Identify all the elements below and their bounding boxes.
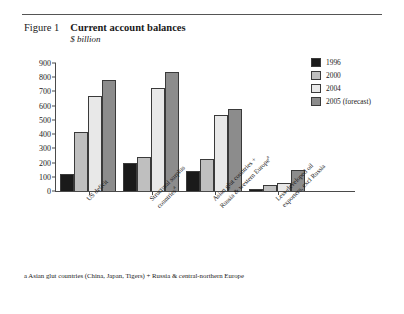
legend-item[interactable]: 1996 [311, 56, 371, 68]
bar [88, 96, 102, 191]
y-axis-tick-mark [52, 77, 56, 78]
figure-subtitle: $ billion [70, 34, 185, 45]
legend-swatch [311, 71, 321, 80]
top-rule [22, 14, 382, 15]
figure-footnote: a Asian glut countries (China, Japan, Ti… [24, 272, 244, 279]
figure-container: Figure 1 Current account balances $ bill… [0, 0, 404, 314]
y-axis-tick-mark [52, 176, 56, 177]
bar-group [60, 63, 118, 191]
bar [151, 88, 165, 191]
legend-swatch [311, 97, 321, 106]
legend-item[interactable]: 2000 [311, 69, 371, 81]
legend-swatch [311, 84, 321, 93]
bar [102, 80, 116, 191]
bar [74, 132, 88, 191]
y-axis-tick-mark [52, 119, 56, 120]
bar [137, 157, 151, 191]
y-axis-tick-mark [52, 162, 56, 163]
plot-area: 0100200300400500600700800900 US deficitS… [56, 63, 284, 191]
legend-item[interactable]: 2004 [311, 82, 371, 94]
bar [214, 115, 228, 191]
y-axis-tick-mark [52, 63, 56, 64]
bar [263, 185, 277, 191]
bar [123, 163, 137, 191]
y-axis-tick-mark [52, 134, 56, 135]
legend-label: 2000 [326, 71, 341, 80]
bar [200, 159, 214, 191]
legend-item[interactable]: 2005 (forecast) [311, 95, 371, 107]
title-texts: Current account balances $ billion [70, 22, 185, 45]
legend-label: 1996 [326, 58, 341, 67]
footnote-marker: a [171, 184, 176, 189]
bar [249, 189, 263, 191]
page-title: Current account balances [70, 22, 185, 34]
y-axis-tick-mark [52, 105, 56, 106]
bar [60, 174, 74, 191]
legend-label: 2005 (forecast) [326, 97, 371, 106]
y-axis-tick-mark [52, 91, 56, 92]
y-axis-tick-mark [52, 191, 56, 192]
legend-label: 2004 [326, 84, 341, 93]
chart-legend: 1996200020042005 (forecast) [311, 56, 371, 108]
y-axis-tick-mark [52, 148, 56, 149]
figure-title-block: Figure 1 Current account balances $ bill… [24, 22, 186, 45]
figure-label: Figure 1 [24, 22, 59, 34]
legend-swatch [311, 58, 321, 67]
